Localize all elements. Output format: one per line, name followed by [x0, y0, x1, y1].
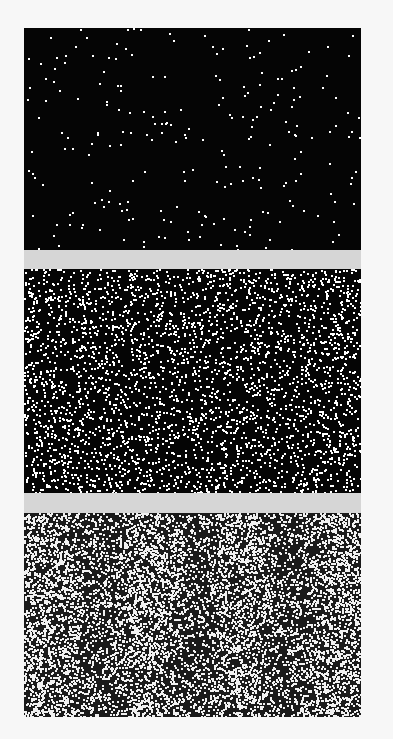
- sparse-dot-panel: [24, 28, 361, 250]
- sparse-dot-canvas: [24, 28, 361, 250]
- dense-dot-canvas: [24, 513, 361, 717]
- random-dot-figure: [24, 28, 361, 717]
- panel-separator: [24, 493, 361, 513]
- medium-dot-canvas: [24, 269, 361, 493]
- dense-dot-panel: [24, 513, 361, 717]
- panel-separator: [24, 250, 361, 269]
- medium-dot-panel: [24, 269, 361, 493]
